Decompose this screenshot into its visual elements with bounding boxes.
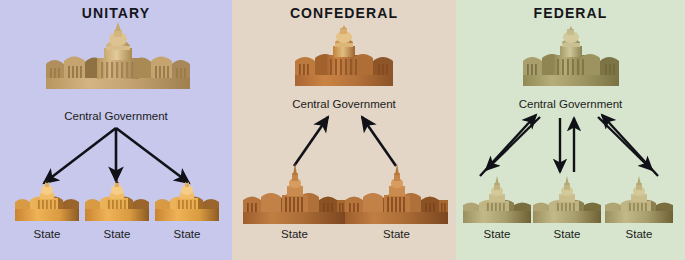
central-government-building-unitary (42, 22, 194, 90)
central-government-label-unitary: Central Government (0, 110, 232, 122)
state-building-unitary-1 (14, 180, 80, 222)
panel-federal: FEDERAL (456, 0, 685, 260)
central-government-label-federal: Central Government (456, 98, 685, 110)
panel-confederal: CONFEDERAL (232, 0, 456, 260)
government-systems-diagram: UNITARY (0, 0, 685, 260)
central-government-label-confederal: Central Government (232, 98, 456, 110)
state-label-unitary-2: State (84, 228, 150, 240)
state-label-federal-3: State (604, 228, 674, 240)
state-label-federal-2: State (532, 228, 602, 240)
state-building-federal-2 (532, 176, 602, 224)
panel-title-unitary: UNITARY (0, 5, 232, 21)
state-label-unitary-1: State (14, 228, 80, 240)
panel-unitary: UNITARY (0, 0, 232, 260)
state-building-federal-1 (462, 176, 532, 224)
state-building-confederal-1 (242, 163, 347, 225)
state-building-unitary-3 (154, 180, 220, 222)
state-building-federal-3 (604, 176, 674, 224)
state-label-unitary-3: State (154, 228, 220, 240)
state-label-confederal-1: State (242, 228, 347, 240)
panel-title-federal: FEDERAL (456, 5, 685, 21)
state-building-confederal-2 (344, 163, 449, 225)
state-label-federal-1: State (462, 228, 532, 240)
state-building-unitary-2 (84, 180, 150, 222)
state-label-confederal-2: State (344, 228, 449, 240)
central-government-building-federal (521, 25, 621, 87)
panel-title-confederal: CONFEDERAL (232, 5, 456, 21)
central-government-building-confederal (293, 25, 395, 87)
